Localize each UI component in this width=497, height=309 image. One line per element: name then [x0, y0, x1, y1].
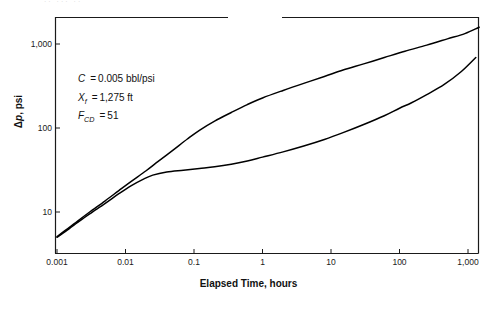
annotation-row-fcd: FCD=51 — [78, 109, 155, 128]
y-axis-ticks — [56, 44, 61, 212]
y-axis-title: Δp, psi — [13, 77, 24, 147]
y-axis-title-delta: Δ — [13, 121, 24, 128]
x-tick-label-6: 1,000 — [457, 257, 478, 267]
x-tick-label-5: 100 — [392, 257, 406, 267]
parameter-annotation: C=0.005 bbl/psi Xf=1,275 ft FCD=51 — [78, 72, 155, 128]
annotation-symbol-xf: X — [78, 92, 85, 103]
annotation-value-xf: 1,275 ft — [100, 92, 133, 103]
x-axis-ticks — [57, 249, 468, 254]
annotation-subscript-fcd: CD — [84, 115, 94, 124]
y-axis-title-p: p — [13, 115, 24, 121]
x-tick-label-4: 10 — [326, 257, 335, 267]
annotation-row-c: C=0.005 bbl/psi — [78, 72, 155, 91]
figure-container: ·· ··· ·· 0.001 0. — [0, 0, 497, 309]
annotation-row-xf: Xf=1,275 ft — [78, 91, 155, 110]
x-axis-title: Elapsed Time, hours — [0, 278, 497, 289]
x-tick-label-3: 1 — [260, 257, 265, 267]
y-tick-label-2: 1,000 — [14, 39, 52, 49]
y-axis-title-units: , psi — [13, 95, 24, 115]
x-tick-label-2: 0.1 — [188, 257, 200, 267]
annotation-equals-xf: = — [87, 92, 100, 103]
annotation-value-fcd: 51 — [107, 110, 118, 121]
x-tick-label-1: 0.01 — [117, 257, 134, 267]
x-tick-label-0: 0.001 — [46, 257, 67, 267]
chart-plot-area — [0, 0, 497, 309]
data-curve-upper — [57, 27, 479, 236]
annotation-equals-c: = — [85, 73, 98, 84]
axis-frame — [55, 17, 479, 254]
annotation-value-c: 0.005 bbl/psi — [98, 73, 155, 84]
annotation-equals-fcd: = — [95, 110, 108, 121]
y-tick-label-0: 10 — [14, 207, 52, 217]
